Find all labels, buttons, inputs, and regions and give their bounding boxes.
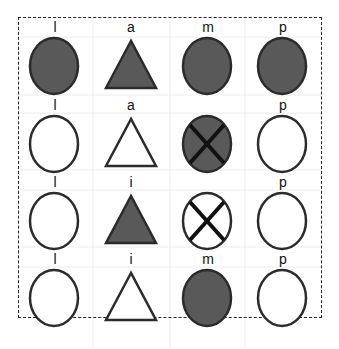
crossed-filled-circle-icon — [170, 96, 246, 176]
cell-r2-c3 — [170, 96, 246, 176]
cell-r2-c4: p — [245, 96, 321, 176]
filled-triangle-icon — [93, 173, 169, 253]
cell-r4-c3: m — [170, 250, 246, 330]
filled-circle-icon — [245, 18, 321, 98]
cell-r4-c1: l — [17, 250, 93, 330]
cell-r1-c4: p — [245, 18, 321, 98]
filled-circle-icon — [17, 18, 93, 98]
empty-triangle-icon — [93, 96, 169, 176]
cell-r3-c1: l — [17, 173, 93, 253]
cell-r2-c1: l — [17, 96, 93, 176]
filled-triangle-icon — [93, 18, 169, 98]
empty-triangle-icon — [93, 250, 169, 330]
empty-circle-icon — [17, 250, 93, 330]
cell-r1-c1: l — [17, 18, 93, 98]
empty-circle-icon — [17, 173, 93, 253]
cell-r1-c3: m — [170, 18, 246, 98]
cell-r4-c4: p — [245, 250, 321, 330]
filled-circle-icon — [170, 250, 246, 330]
cell-r1-c2: a — [93, 18, 169, 98]
cell-r3-c4: p — [245, 173, 321, 253]
empty-circle-icon — [245, 96, 321, 176]
empty-circle-icon — [17, 96, 93, 176]
cell-r3-c3 — [170, 173, 246, 253]
empty-circle-icon — [245, 250, 321, 330]
cell-r3-c2: i — [93, 173, 169, 253]
crossed-empty-circle-icon — [170, 173, 246, 253]
filled-circle-icon — [170, 18, 246, 98]
empty-circle-icon — [245, 173, 321, 253]
cell-r2-c2: a — [93, 96, 169, 176]
cell-r4-c2: i — [93, 250, 169, 330]
